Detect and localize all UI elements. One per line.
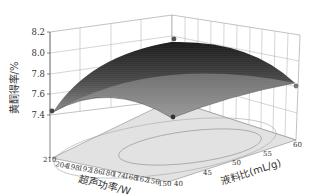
y-tick-45: 45 xyxy=(203,169,212,177)
y-tick-40: 40 xyxy=(174,180,183,188)
y-tick-50: 50 xyxy=(232,159,241,167)
y-tick-55: 55 xyxy=(263,150,272,158)
z-axis-label: 黄酮得率/% xyxy=(8,62,20,115)
z-tick-8.0: 8.0 xyxy=(31,48,45,58)
z-tick-7.8: 7.8 xyxy=(31,69,45,79)
z-axis: 8.2 8.0 7.8 7.6 7.4 黄酮得率/% xyxy=(8,27,50,158)
z-tick-7.4: 7.4 xyxy=(31,110,45,120)
response-surface-chart: 8.2 8.0 7.8 7.6 7.4 黄酮得率/% 210 204 198 1… xyxy=(0,0,312,196)
z-tick-7.6: 7.6 xyxy=(31,89,45,99)
x-tick-210: 210 xyxy=(43,156,56,164)
z-tick-8.2: 8.2 xyxy=(31,27,45,37)
y-tick-60: 60 xyxy=(293,141,302,149)
x-tick-150: 150 xyxy=(158,180,171,188)
